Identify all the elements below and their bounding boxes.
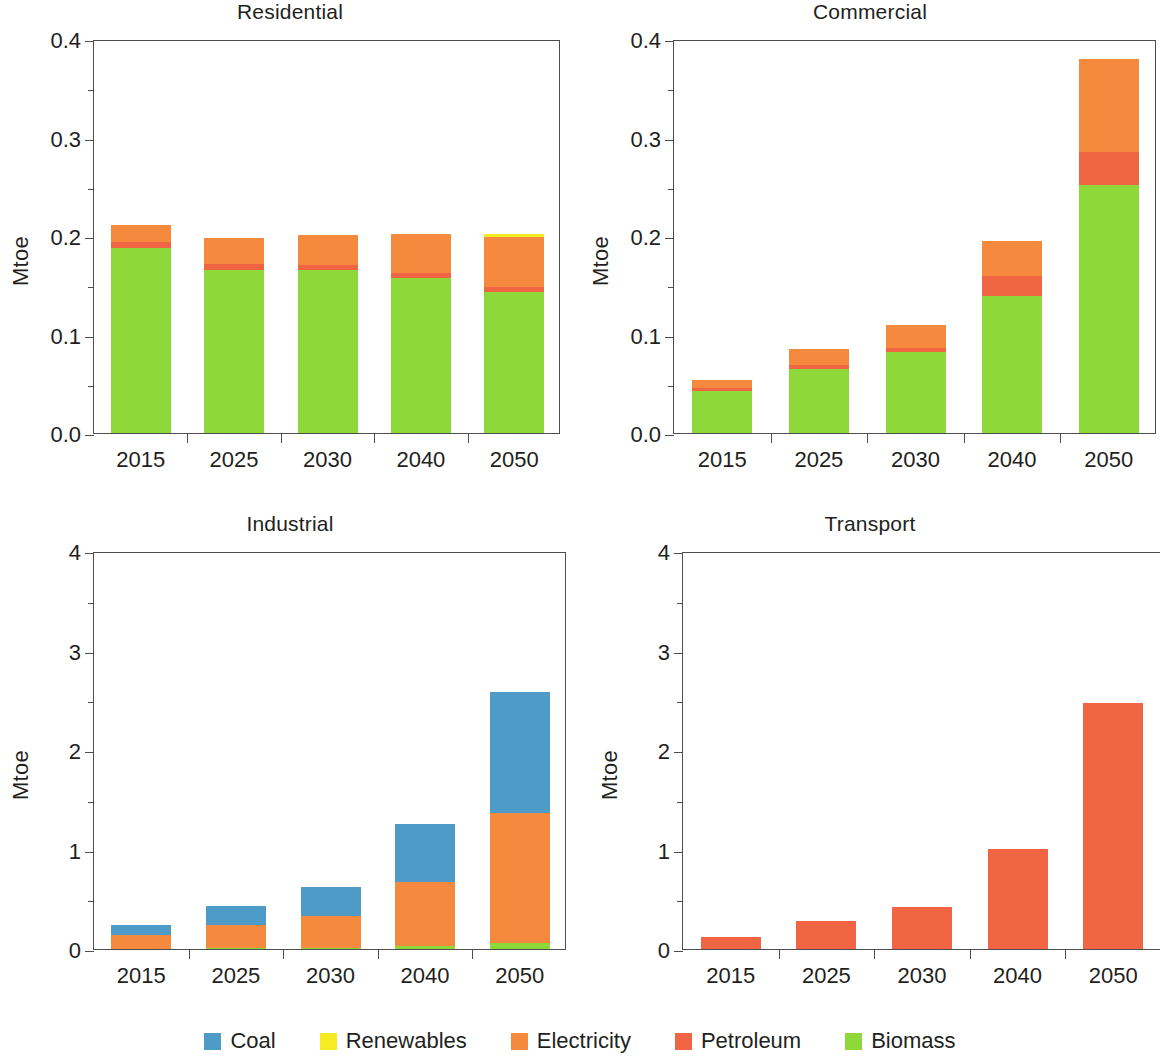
y-tick-mark-transport-4 — [674, 553, 683, 554]
coal-swatch — [204, 1033, 221, 1050]
bar-segment-commercial-2015-petroleum — [692, 388, 752, 391]
bar-transport-2030 — [892, 907, 952, 949]
x-tick-label-industrial-2040: 2040 — [401, 949, 450, 989]
bar-segment-industrial-2030-biomass — [301, 948, 361, 949]
x-tick-label-industrial-2030: 2030 — [306, 949, 355, 989]
renewables-swatch — [320, 1033, 337, 1050]
bar-industrial-2025 — [206, 906, 266, 949]
y-minor-tick-transport — [677, 802, 683, 803]
bar-segment-commercial-2025-electricity — [789, 349, 849, 365]
bar-commercial-2040 — [982, 241, 1042, 433]
y-axis-label-commercial: Mtoe — [588, 236, 614, 286]
y-minor-tick-industrial — [88, 603, 94, 604]
bar-segment-commercial-2030-petroleum — [886, 348, 946, 352]
bar-segment-commercial-2040-petroleum — [982, 276, 1042, 296]
panel-industrial: IndustrialMtoe0123420152025203020402050 — [0, 512, 580, 1024]
y-minor-tick-industrial — [88, 901, 94, 902]
y-minor-tick-residential — [88, 189, 94, 190]
legend-label-renewables: Renewables — [346, 1028, 467, 1054]
bar-segment-transport-2015-petroleum — [701, 937, 761, 949]
x-tick-mark-residential-1 — [187, 433, 188, 443]
y-tick-mark-transport-1 — [674, 852, 683, 853]
y-minor-tick-commercial — [668, 386, 674, 387]
x-tick-label-commercial-2040: 2040 — [988, 433, 1037, 473]
x-tick-mark-transport-4 — [1065, 949, 1066, 959]
bar-segment-industrial-2050-biomass — [490, 943, 550, 949]
legend-label-biomass: Biomass — [871, 1028, 955, 1054]
y-tick-mark-residential-4 — [85, 41, 94, 42]
bar-segment-commercial-2015-biomass — [692, 391, 752, 433]
x-tick-mark-commercial-4 — [1060, 433, 1061, 443]
x-tick-label-transport-2030: 2030 — [898, 949, 947, 989]
bar-segment-industrial-2040-electricity — [395, 882, 455, 946]
x-tick-mark-residential-3 — [374, 433, 375, 443]
y-tick-mark-industrial-4 — [85, 553, 94, 554]
y-axis-label-residential: Mtoe — [8, 236, 34, 286]
y-axis-label-transport: Mtoe — [597, 750, 623, 800]
panel-title-commercial: Commercial — [580, 0, 1160, 24]
panel-commercial: CommercialMtoe0.00.10.20.30.420152025203… — [580, 0, 1160, 512]
legend-item-biomass: Biomass — [845, 1028, 955, 1054]
bar-segment-residential-2040-electricity — [391, 234, 451, 273]
bar-segment-commercial-2040-biomass — [982, 296, 1042, 433]
x-tick-label-transport-2040: 2040 — [993, 949, 1042, 989]
y-tick-mark-industrial-0 — [85, 951, 94, 952]
legend-item-renewables: Renewables — [320, 1028, 467, 1054]
bar-transport-2025 — [796, 921, 856, 949]
chart-grid: ResidentialMtoe0.00.10.20.30.42015202520… — [0, 0, 1160, 1012]
x-tick-mark-residential-4 — [468, 433, 469, 443]
bar-segment-commercial-2050-biomass — [1079, 185, 1139, 433]
x-tick-label-commercial-2015: 2015 — [698, 433, 747, 473]
y-minor-tick-commercial — [668, 90, 674, 91]
panel-title-industrial: Industrial — [0, 512, 580, 536]
bar-segment-industrial-2030-electricity — [301, 916, 361, 948]
x-tick-label-residential-2030: 2030 — [303, 433, 352, 473]
bar-segment-commercial-2025-biomass — [789, 369, 849, 433]
x-tick-label-commercial-2025: 2025 — [794, 433, 843, 473]
bar-segment-residential-2015-biomass — [111, 248, 171, 433]
x-tick-mark-industrial-3 — [378, 949, 379, 959]
bar-segment-residential-2050-electricity — [484, 237, 544, 287]
bar-transport-2015 — [701, 937, 761, 949]
bar-segment-residential-2040-biomass — [391, 278, 451, 433]
y-axis-label-industrial: Mtoe — [8, 750, 34, 800]
y-minor-tick-transport — [677, 901, 683, 902]
x-tick-label-residential-2040: 2040 — [396, 433, 445, 473]
x-tick-label-commercial-2050: 2050 — [1084, 433, 1133, 473]
bar-transport-2040 — [988, 849, 1048, 949]
plot-area-residential: 0.00.10.20.30.420152025203020402050 — [93, 40, 560, 434]
y-minor-tick-residential — [88, 287, 94, 288]
bar-residential-2050 — [484, 234, 544, 433]
bar-residential-2030 — [298, 235, 358, 433]
x-tick-mark-industrial-2 — [283, 949, 284, 959]
y-tick-mark-residential-1 — [85, 337, 94, 338]
y-tick-mark-industrial-1 — [85, 852, 94, 853]
x-tick-label-commercial-2030: 2030 — [891, 433, 940, 473]
x-tick-mark-residential-2 — [281, 433, 282, 443]
legend-label-electricity: Electricity — [537, 1028, 631, 1054]
bar-commercial-2015 — [692, 380, 752, 433]
x-tick-mark-transport-3 — [970, 949, 971, 959]
figure-legend: CoalRenewablesElectricityPetroleumBiomas… — [0, 1022, 1160, 1060]
x-tick-label-transport-2015: 2015 — [706, 949, 755, 989]
y-tick-mark-commercial-0 — [665, 435, 674, 436]
bar-segment-commercial-2040-electricity — [982, 241, 1042, 276]
x-tick-label-residential-2015: 2015 — [116, 433, 165, 473]
y-tick-mark-commercial-4 — [665, 41, 674, 42]
y-minor-tick-commercial — [668, 287, 674, 288]
y-tick-mark-residential-3 — [85, 140, 94, 141]
bar-segment-industrial-2050-coal — [490, 692, 550, 812]
x-tick-mark-commercial-3 — [964, 433, 965, 443]
x-tick-mark-commercial-2 — [867, 433, 868, 443]
bar-segment-residential-2015-petroleum — [111, 242, 171, 248]
panel-residential: ResidentialMtoe0.00.10.20.30.42015202520… — [0, 0, 580, 512]
y-minor-tick-residential — [88, 386, 94, 387]
bar-segment-residential-2040-petroleum — [391, 273, 451, 278]
y-minor-tick-transport — [677, 603, 683, 604]
bar-industrial-2030 — [301, 887, 361, 949]
bar-segment-commercial-2025-petroleum — [789, 365, 849, 369]
electricity-swatch — [511, 1033, 528, 1050]
x-tick-mark-transport-2 — [874, 949, 875, 959]
x-tick-mark-industrial-1 — [189, 949, 190, 959]
legend-label-petroleum: Petroleum — [701, 1028, 801, 1054]
